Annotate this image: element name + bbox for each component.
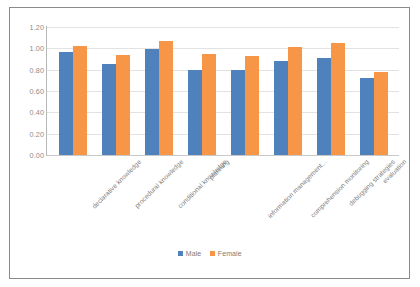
x-label-slot: debugging strategies [309, 156, 352, 226]
bar-female [245, 56, 259, 155]
bar-group [309, 27, 352, 155]
bar-female [331, 43, 345, 155]
bar-male [231, 70, 245, 155]
bar-female [159, 41, 173, 155]
bar-male [317, 58, 331, 155]
x-label-slot: planning [180, 156, 223, 226]
x-axis-category-labels: declarative knowledgeprocedural knowledg… [47, 156, 399, 226]
bar-female [202, 54, 216, 155]
bar-female [374, 72, 388, 155]
y-tick-label: 0.40 [4, 108, 44, 117]
y-tick-label: 0.60 [4, 87, 44, 96]
x-label-slot: information management... [223, 156, 266, 226]
y-tick-label: 0.80 [4, 65, 44, 74]
bar-female [116, 55, 130, 155]
legend-label: Male [186, 250, 202, 257]
y-tick-label: 1.20 [4, 23, 44, 32]
bar-male [59, 52, 73, 155]
plot-area [47, 27, 399, 155]
y-tick-label: 0.00 [4, 151, 44, 160]
y-tick-label: 1.00 [4, 44, 44, 53]
bar-male [188, 70, 202, 155]
bar-group [51, 27, 94, 155]
legend-item: Male [178, 250, 201, 257]
bar-chart-figure: 1.201.000.800.600.400.200.00 declarative… [0, 0, 420, 287]
bar-group [137, 27, 180, 155]
y-tick-label: 0.20 [4, 129, 44, 138]
y-axis-tick-labels: 1.201.000.800.600.400.200.00 [0, 27, 44, 155]
bar-male [102, 64, 116, 155]
legend-item: Female [210, 250, 241, 257]
x-label-slot: conditional knowledge [137, 156, 180, 226]
x-label-slot: declarative knowledge [51, 156, 94, 226]
legend-label: Female [218, 250, 242, 257]
legend-swatch-icon [210, 251, 215, 256]
x-label-slot: evaluation [352, 156, 395, 226]
bar-groups [47, 27, 399, 155]
bar-male [274, 61, 288, 155]
bar-female [73, 46, 87, 155]
legend-swatch-icon [178, 251, 183, 256]
bar-group [180, 27, 223, 155]
bar-female [288, 47, 302, 155]
bar-group [266, 27, 309, 155]
chart-legend: MaleFemale [0, 250, 420, 257]
x-label-slot: procedural knowledge [94, 156, 137, 226]
bar-male [145, 49, 159, 155]
bar-male [360, 78, 374, 155]
bar-group [352, 27, 395, 155]
bar-group [94, 27, 137, 155]
x-label-slot: comprehension monitoring [266, 156, 309, 226]
bar-group [223, 27, 266, 155]
